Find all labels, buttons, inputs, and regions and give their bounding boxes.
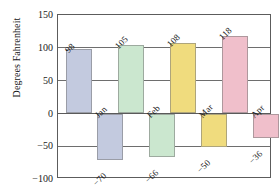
value-label-apr-low: −36 [247,149,264,166]
y-tick-100: 100 [23,42,53,53]
value-label-jan-low: −70 [91,171,108,188]
bar-mar-high [170,43,196,113]
y-tick-neg100: −100 [23,173,53,184]
y-axis-tick-labels: 150 100 50 0 −50 −100 [22,0,53,191]
y-tick-0: 0 [23,108,53,119]
value-label-feb-low: −66 [143,168,160,185]
bar-feb-low [149,114,175,157]
y-axis-title: Degrees Fahrenheit [11,0,22,118]
bar-jan-high [66,49,92,113]
y-tick-150: 150 [23,9,53,20]
y-tick-neg50: −50 [23,140,53,151]
bar-feb-high [118,45,144,113]
value-label-mar-low: −50 [195,158,212,175]
y-tick-50: 50 [23,75,53,86]
bar-chart: Degrees Fahrenheit 150 100 50 0 −50 −100… [0,0,280,191]
bar-apr-high [222,36,248,113]
plot-area: 98 105 108 118 Jan Feb Mar Apr −70 −66 −… [57,14,271,178]
bar-jan-low [97,114,123,160]
